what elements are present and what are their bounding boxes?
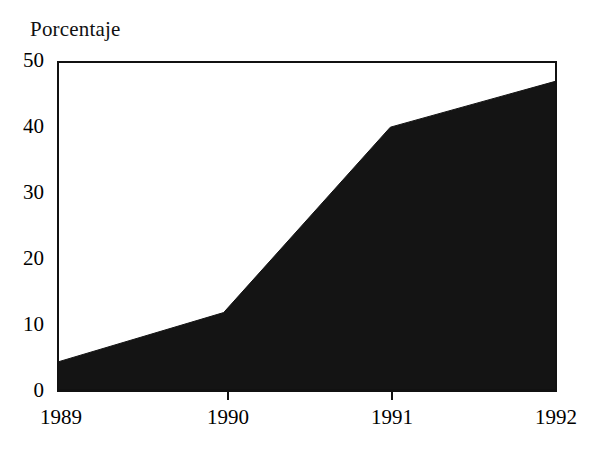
x-tick-mark-1991	[391, 392, 393, 400]
y-tick-label-20: 20	[0, 248, 44, 269]
y-tick-label-10: 10	[0, 314, 44, 335]
plot-area	[57, 61, 557, 392]
y-axis-tick-labels: 50 40 30 20 10 0	[0, 0, 50, 460]
y-tick-label-40: 40	[0, 116, 44, 137]
y-tick-label-30: 30	[0, 182, 44, 203]
y-tick-label-0: 0	[0, 380, 44, 401]
y-tick-label-50: 50	[0, 50, 44, 71]
x-tick-label-1991: 1991	[347, 404, 437, 430]
x-axis-tick-labels: 1989 1990 1991 1992	[0, 404, 605, 438]
x-tick-label-1992: 1992	[511, 404, 601, 430]
chart-figure: Porcentaje 50 40 30 20 10 0 1989 1990 19…	[0, 0, 605, 460]
area-series-polygon	[57, 61, 557, 392]
x-tick-mark-1990	[227, 392, 229, 400]
x-tick-label-1989: 1989	[16, 404, 106, 430]
x-tick-label-1990: 1990	[183, 404, 273, 430]
